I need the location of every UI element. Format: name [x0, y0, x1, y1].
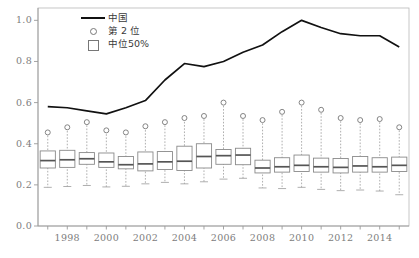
x-tick-label: 2014 [360, 232, 400, 243]
y-tick-label: 0.8 [2, 55, 32, 66]
x-tick-label: 2006 [204, 232, 244, 243]
legend-label-median-50: 中位50% [108, 37, 149, 50]
second-place-marker [338, 116, 343, 121]
y-tick-label: 0.6 [2, 97, 32, 108]
box-rect [118, 156, 133, 168]
y-tick-label: 0.2 [2, 179, 32, 190]
box-rect [157, 152, 172, 170]
chart-legend: 中国 第 2 位 中位50% [78, 11, 170, 53]
boxplot-group [40, 132, 55, 187]
legend-label-china: 中国 [108, 11, 128, 24]
boxplot-group [177, 119, 192, 184]
boxplot-group [294, 103, 309, 188]
boxplot-group [216, 103, 231, 180]
box-rect [392, 157, 407, 171]
box-rect [255, 160, 270, 173]
circle-key-icon [78, 24, 108, 37]
boxplot-group [392, 127, 407, 194]
boxplot-group [333, 118, 348, 191]
boxplot-group [235, 116, 250, 178]
second-place-marker [397, 125, 402, 130]
box-rect [372, 158, 387, 172]
x-tick-label: 1998 [47, 232, 87, 243]
boxplot-group [353, 120, 368, 190]
box-rect [274, 158, 289, 172]
box-rect [99, 153, 114, 167]
second-place-marker [358, 118, 363, 123]
boxplot-group [372, 119, 387, 191]
y-tick-label: 1.0 [2, 14, 32, 25]
box-rect [216, 149, 231, 164]
box-key-icon [78, 37, 108, 50]
boxplot-group [60, 128, 75, 187]
box-rect [314, 158, 329, 172]
boxplot-group [157, 122, 172, 182]
boxplot-group [314, 110, 329, 190]
boxplot-group [79, 122, 94, 185]
x-tick-label: 2010 [282, 232, 322, 243]
boxplot-chart: 中国 第 2 位 中位50% 0.00.20.40.60.81.01998200… [0, 0, 419, 258]
second-place-marker [280, 109, 285, 114]
box-rect [177, 146, 192, 170]
boxplot-group [255, 120, 270, 188]
boxplot-group [118, 133, 133, 186]
x-tick-label: 2000 [86, 232, 126, 243]
second-place-marker [260, 118, 265, 123]
y-tick-label: 0.4 [2, 138, 32, 149]
boxplot-group [196, 116, 211, 182]
box-rect [294, 155, 309, 171]
y-tick-label: 0.0 [2, 220, 32, 231]
boxplot-group [99, 131, 114, 187]
second-place-marker [299, 100, 304, 105]
x-tick-label: 2008 [243, 232, 283, 243]
box-rect [40, 151, 55, 168]
second-place-marker [143, 124, 148, 129]
legend-item-median-50: 中位50% [78, 37, 170, 50]
box-rect [60, 150, 75, 167]
boxplot-group [274, 112, 289, 189]
box-rect [138, 152, 153, 171]
x-tick-label: 2004 [164, 232, 204, 243]
box-rect [353, 156, 368, 172]
second-place-marker [84, 120, 89, 125]
second-place-marker [377, 117, 382, 122]
line-key-icon [78, 11, 108, 24]
box-rect [333, 159, 348, 173]
plot-canvas [0, 0, 419, 258]
second-place-marker [201, 113, 206, 118]
second-place-marker [104, 128, 109, 133]
x-tick-label: 2002 [125, 232, 165, 243]
second-place-marker [319, 107, 324, 112]
boxplot-group [138, 127, 153, 184]
second-place-marker [241, 113, 246, 118]
second-place-marker [182, 116, 187, 121]
legend-item-second-place: 第 2 位 [78, 24, 170, 37]
box-rect [235, 148, 250, 164]
legend-label-second-place: 第 2 位 [108, 24, 140, 37]
second-place-marker [221, 100, 226, 105]
x-tick-label: 2012 [321, 232, 361, 243]
legend-item-china: 中国 [78, 11, 170, 24]
second-place-marker [65, 125, 70, 130]
second-place-marker [162, 120, 167, 125]
second-place-marker [45, 130, 50, 135]
second-place-marker [123, 130, 128, 135]
